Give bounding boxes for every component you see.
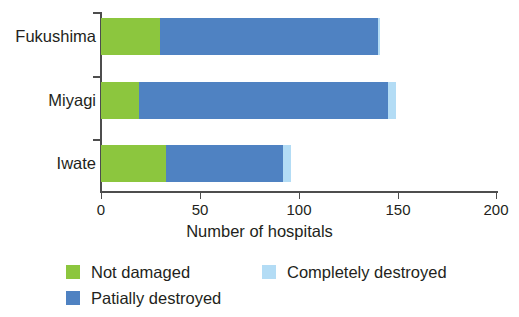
x-axis-tick-200 (496, 193, 497, 199)
y-axis-label-fukushima: Fukushima (15, 28, 96, 45)
legend-item-not-damaged: Not damaged (66, 264, 190, 281)
legend-swatch-patially-destroyed (66, 291, 80, 305)
bar-segment-completely-destroyed (283, 145, 291, 182)
bar-segment-patially-destroyed (166, 145, 283, 182)
legend-item-patially-destroyed: Patially destroyed (66, 290, 221, 307)
bar-segment-not-damaged (101, 18, 160, 55)
x-axis-tick-0 (101, 193, 102, 199)
y-axis-label-iwate: Iwate (57, 155, 96, 172)
bar-row (101, 82, 396, 119)
y-axis-tick-top (93, 12, 100, 14)
legend-label-patially-destroyed: Patially destroyed (91, 290, 221, 307)
bar-segment-patially-destroyed (139, 82, 388, 119)
x-axis-tick-label-200: 200 (483, 201, 508, 218)
x-axis-tick-label-50: 50 (192, 201, 209, 218)
x-axis-tick-100 (299, 193, 300, 199)
legend-item-completely-destroyed: Completely destroyed (262, 264, 447, 281)
bar-row (101, 145, 291, 182)
bar-segment-completely-destroyed (388, 82, 396, 119)
x-axis-tick-150 (398, 193, 399, 199)
x-axis-tick-label-100: 100 (286, 201, 311, 218)
x-axis-title: Number of hospitals (0, 222, 519, 241)
hospital-damage-bar-chart: Fukushima Miyagi Iwate (0, 0, 519, 317)
legend-swatch-completely-destroyed (262, 265, 276, 279)
x-axis-tick-label-0: 0 (97, 201, 105, 218)
y-axis-tick-fukushima (93, 76, 100, 78)
x-axis-tick-label-150: 150 (385, 201, 410, 218)
bar-row (101, 18, 380, 55)
plot-area: 0 50 100 150 200 (100, 12, 497, 192)
bar-segment-patially-destroyed (160, 18, 378, 55)
y-axis-label-miyagi: Miyagi (48, 92, 96, 109)
x-axis-tick-50 (200, 193, 201, 199)
bar-segment-not-damaged (101, 82, 139, 119)
legend-label-not-damaged: Not damaged (91, 264, 190, 281)
y-axis-tick-miyagi (93, 139, 100, 141)
legend-label-completely-destroyed: Completely destroyed (287, 264, 447, 281)
bar-segment-completely-destroyed (378, 18, 380, 55)
legend-swatch-not-damaged (66, 265, 80, 279)
bar-segment-not-damaged (101, 145, 166, 182)
